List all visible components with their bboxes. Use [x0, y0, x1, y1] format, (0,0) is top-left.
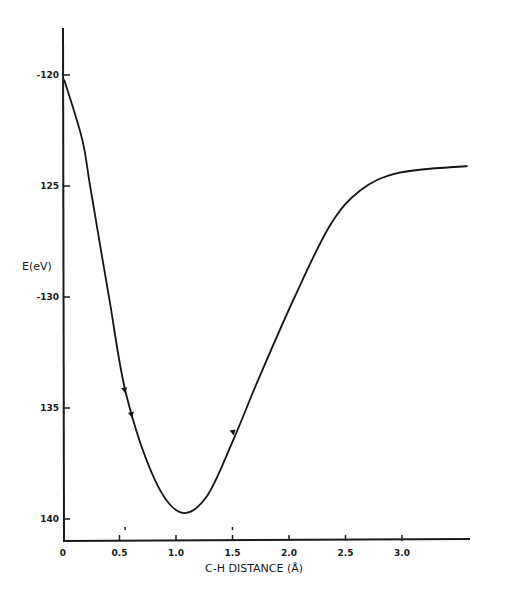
x-tick-label: 1.5: [225, 548, 241, 558]
x-tick-label: 2.0: [281, 548, 297, 558]
y-tick-label: 135: [40, 403, 59, 413]
x-tick-label: 1.0: [168, 548, 184, 558]
x-ticks: 00.51.01.52.02.53.0: [60, 527, 410, 558]
y-tick-label: -130: [36, 292, 59, 302]
energy-curve: [64, 79, 467, 513]
potential-energy-chart: 00.51.01.52.02.53.0 -120125-130135140 E(…: [0, 0, 508, 595]
y-axis-label: E(eV): [22, 260, 52, 273]
y-tick-label: 125: [40, 181, 59, 191]
y-tick-label: 140: [40, 514, 59, 524]
data-markers: [121, 387, 235, 435]
x-axis-label: C-H DISTANCE (Å): [205, 562, 303, 575]
x-tick-label: 3.0: [394, 548, 410, 558]
x-tick-label: 0: [60, 548, 66, 558]
y-ticks: -120125-130135140: [36, 70, 70, 524]
y-tick-label: -120: [36, 70, 59, 80]
axes: [63, 28, 470, 541]
x-tick-label: 2.5: [338, 548, 354, 558]
y-axis-line: [63, 28, 64, 541]
x-tick-label: 0.5: [112, 548, 128, 558]
x-axis-line: [63, 539, 470, 541]
